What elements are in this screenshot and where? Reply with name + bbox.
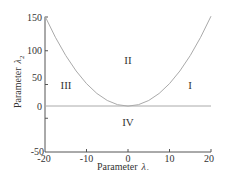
x-tick-label: 20: [204, 153, 214, 164]
region-label-II: II: [124, 54, 132, 66]
y-tick-label: 50: [32, 72, 42, 83]
x-tick-label: -20: [37, 153, 50, 164]
x-axis-label: Parameterλ1: [97, 161, 150, 170]
region-label-IV: IV: [122, 116, 134, 128]
region-label-I: I: [188, 79, 192, 91]
y-axis-label: Parameterλ2: [12, 55, 26, 108]
x-tick-label: 10: [165, 153, 175, 164]
x-tick-label: -10: [80, 153, 93, 164]
y-tick-label: 0: [37, 101, 42, 112]
chart: 150 100 50 0 -50 -20 -10 0 10 20 Paramet…: [0, 0, 228, 170]
y-tick-label: 150: [27, 12, 42, 23]
region-label-III: III: [61, 79, 72, 91]
y-tick-label: 100: [27, 45, 42, 56]
